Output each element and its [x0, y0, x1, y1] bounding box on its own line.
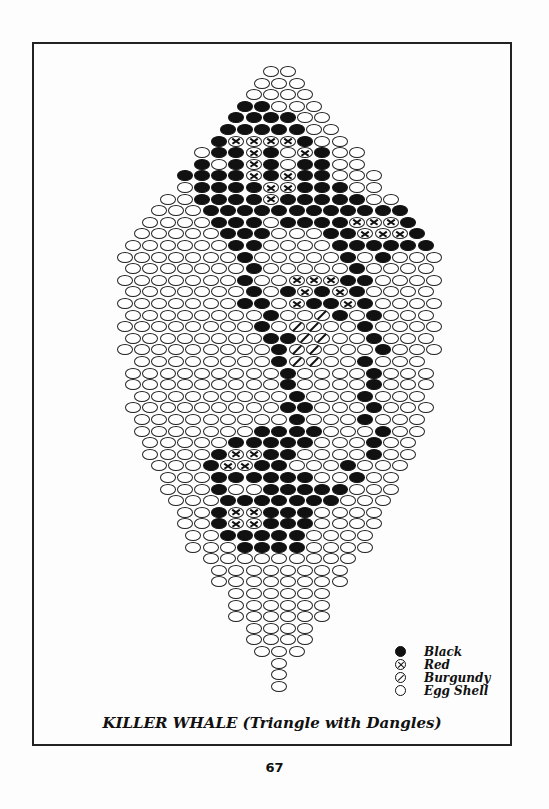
bead-eggshell [237, 321, 253, 332]
bead-eggshell [177, 263, 193, 274]
bead-eggshell [220, 391, 236, 402]
bead-eggshell [314, 379, 330, 390]
bead-eggshell [306, 414, 322, 425]
bead-eggshell [323, 391, 339, 402]
bead-eggshell [160, 263, 176, 274]
bead-eggshell [220, 414, 236, 425]
bead-eggshell [211, 286, 227, 297]
bead-black [271, 356, 287, 367]
bead-eggshell [142, 437, 158, 448]
bead-black [263, 159, 279, 170]
bead-black [340, 228, 356, 239]
bead-black [246, 263, 262, 274]
bead-eggshell [349, 368, 365, 379]
bead-eggshell [314, 449, 330, 460]
bead-red [228, 136, 244, 147]
bead-eggshell [263, 240, 279, 251]
bead-black [194, 170, 210, 181]
bead-eggshell [263, 623, 279, 634]
bead-eggshell [246, 623, 262, 634]
bead-black [246, 240, 262, 251]
color-legend: BlackRedBurgundyEgg Shell [395, 645, 490, 697]
bead-eggshell [220, 553, 236, 564]
bead-eggshell [168, 252, 184, 263]
bead-black [228, 182, 244, 193]
bead-eggshell [340, 530, 356, 541]
bead-black [271, 542, 287, 553]
bead-eggshell [228, 402, 244, 413]
bead-eggshell [117, 252, 133, 263]
bead-eggshell [246, 402, 262, 413]
bead-black [297, 159, 313, 170]
bead-red [246, 518, 262, 529]
bead-eggshell [151, 252, 167, 263]
bead-eggshell [418, 333, 434, 344]
bead-eggshell [185, 391, 201, 402]
bead-eggshell [392, 252, 408, 263]
bead-eggshell [332, 379, 348, 390]
bead-eggshell [246, 588, 262, 599]
bead-black [263, 437, 279, 448]
bead-black [357, 275, 373, 286]
bead-black [211, 182, 227, 193]
bead-black [323, 228, 339, 239]
bead-eggshell [383, 472, 399, 483]
bead-black [246, 182, 262, 193]
bead-eggshell [297, 310, 313, 321]
bead-eggshell [220, 344, 236, 355]
bead-eggshell [383, 263, 399, 274]
bead-eggshell [237, 426, 253, 437]
bead-black [211, 484, 227, 495]
bead-black [314, 217, 330, 228]
bead-eggshell [134, 228, 150, 239]
bead-eggshell [211, 368, 227, 379]
bead-eggshell [185, 228, 201, 239]
bead-eggshell [280, 310, 296, 321]
bead-eggshell [134, 321, 150, 332]
bead-black [280, 484, 296, 495]
bead-black [306, 205, 322, 216]
bead-eggshell [194, 147, 210, 158]
bead-black [228, 437, 244, 448]
bead-eggshell [228, 588, 244, 599]
bead-black [211, 518, 227, 529]
bead-eggshell [409, 321, 425, 332]
bead-eggshell [237, 356, 253, 367]
bead-red [349, 217, 365, 228]
bead-eggshell [220, 426, 236, 437]
bead-red [228, 507, 244, 518]
bead-black [332, 182, 348, 193]
bead-black [263, 449, 279, 460]
bead-eggshell [194, 286, 210, 297]
bead-eggshell [142, 263, 158, 274]
bead-red [289, 298, 305, 309]
bead-black [400, 217, 416, 228]
bead-eggshell [220, 298, 236, 309]
bead-eggshell [280, 159, 296, 170]
bead-eggshell [271, 78, 287, 89]
legend-item: Red [395, 658, 490, 671]
bead-eggshell [271, 298, 287, 309]
bead-red [366, 217, 382, 228]
bead-eggshell [117, 321, 133, 332]
bead-eggshell [383, 484, 399, 495]
bead-eggshell [185, 344, 201, 355]
bead-eggshell [306, 101, 322, 112]
bead-eggshell [280, 240, 296, 251]
bead-eggshell [297, 588, 313, 599]
bead-eggshell [254, 252, 270, 263]
bead-black [220, 228, 236, 239]
bead-black [211, 472, 227, 483]
bead-black [280, 507, 296, 518]
bead-eggshell [392, 298, 408, 309]
bead-black [211, 136, 227, 147]
bead-eggshell [297, 89, 313, 100]
bead-eggshell [349, 170, 365, 181]
bead-burgundy [306, 344, 322, 355]
bead-eggshell [297, 379, 313, 390]
bead-eggshell [297, 634, 313, 645]
bead-eggshell [323, 344, 339, 355]
bead-eggshell [349, 484, 365, 495]
bead-burgundy [289, 356, 305, 367]
bead-eggshell [297, 240, 313, 251]
